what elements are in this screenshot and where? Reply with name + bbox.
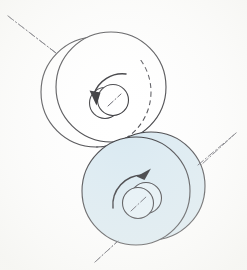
paper-tint-overlay: [0, 0, 247, 270]
wheels-contact-diagram: [0, 0, 247, 270]
figure-canvas: Two contacting rollers with opposite rot…: [0, 0, 247, 270]
